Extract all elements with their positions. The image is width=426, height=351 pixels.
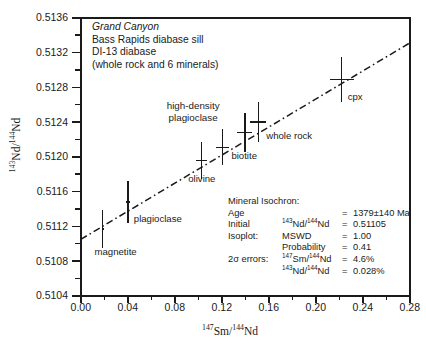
- statistics-row-label: [228, 266, 282, 278]
- statistics-row-value: 1379±140 Ma: [353, 208, 410, 220]
- statistics-row: Age=1379±140 Ma: [228, 208, 410, 220]
- statistics-row: 143Nd/144Nd=0.028%: [228, 266, 410, 278]
- error-bar-v-high-density-plagioclase: [244, 113, 246, 151]
- statistics-row-equals: =: [342, 231, 353, 243]
- hd-plag-line-1: high-density: [167, 100, 220, 112]
- error-bar-v-whole-rock: [258, 102, 260, 142]
- error-bar-v-biotite: [222, 129, 224, 165]
- statistics-row-equals: =: [342, 254, 353, 266]
- statistics-row-label: Age: [228, 208, 282, 220]
- point-label-cpx: cpx: [348, 92, 363, 102]
- statistics-row-sublabel: 143Nd/144Nd: [282, 266, 342, 278]
- statistics-row-equals: =: [342, 266, 353, 278]
- statistics-title: Mineral Isochron:: [228, 196, 410, 208]
- point-label-plagioclase: plagioclase: [134, 214, 182, 224]
- statistics-table: Age=1379±140 MaInitial143Nd/144Nd=0.5110…: [228, 208, 410, 278]
- statistics-row-value: 0.51105: [353, 219, 410, 231]
- point-label-whole-rock: whole rock: [266, 131, 312, 141]
- statistics-row-label: Isoplot:: [228, 231, 282, 243]
- hd-plag-line-2: plagioclase: [167, 112, 220, 124]
- statistics-block: Mineral Isochron: Age=1379±140 MaInitial…: [228, 196, 410, 277]
- point-label-biotite: biotite: [231, 151, 257, 161]
- point-label-magnetite: magnetite: [95, 247, 137, 257]
- statistics-row-value: 0.028%: [353, 266, 410, 278]
- statistics-row-value: 4.6%: [353, 254, 410, 266]
- point-label-high-density-plagioclase: high-density plagioclase: [167, 100, 220, 123]
- statistics-row: Initial143Nd/144Nd=0.51105: [228, 219, 410, 231]
- statistics-row-equals: =: [342, 208, 353, 220]
- error-bar-v-cpx: [341, 57, 343, 102]
- point-label-olivine: olivine: [188, 174, 215, 184]
- isochron-chart: 0.51360.51320.51280.51240.51200.51160.51…: [0, 0, 426, 351]
- statistics-row: Isoplot:MSWD=1.00: [228, 231, 410, 243]
- statistics-row-label: [228, 242, 282, 254]
- error-bar-v-plagioclase: [127, 181, 129, 223]
- statistics-row-value: 1.00: [353, 231, 410, 243]
- statistics-row: 2σ errors:147Sm/144Nd=4.6%: [228, 254, 410, 266]
- statistics-row-value: 0.41: [353, 242, 410, 254]
- statistics-row-sublabel: MSWD: [282, 231, 342, 243]
- statistics-row-label: 2σ errors:: [228, 254, 282, 266]
- error-bar-v-magnetite: [102, 210, 104, 248]
- statistics-row-equals: =: [342, 219, 353, 231]
- statistics-row-equals: =: [342, 242, 353, 254]
- statistics-row-label: Initial: [228, 219, 282, 231]
- statistics-row-sublabel: 143Nd/144Nd: [282, 219, 342, 231]
